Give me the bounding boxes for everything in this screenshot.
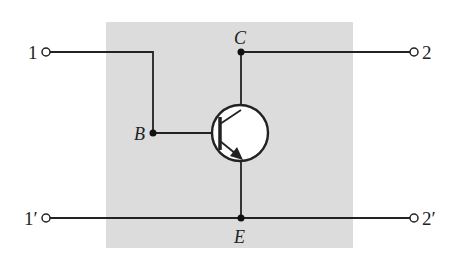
terminal-2: [410, 48, 418, 56]
terminal-2-prime-label: 2′: [422, 208, 436, 229]
base-label: B: [134, 124, 145, 144]
collector-node-dot: [238, 49, 245, 56]
npn-transistor-symbol: [212, 105, 268, 161]
two-port-transistor-diagram: 1 1′ 2 2′ B C E: [0, 0, 463, 273]
terminal-1: [42, 48, 50, 56]
terminal-1-prime-label: 1′: [24, 208, 38, 229]
emitter-label: E: [233, 227, 245, 247]
terminal-1-prime: [42, 214, 50, 222]
terminal-2-prime: [410, 214, 418, 222]
base-node-dot: [150, 130, 157, 137]
terminal-2-label: 2: [422, 42, 432, 63]
terminal-1-label: 1: [28, 42, 38, 63]
collector-label: C: [234, 28, 247, 48]
emitter-node-dot: [238, 215, 245, 222]
